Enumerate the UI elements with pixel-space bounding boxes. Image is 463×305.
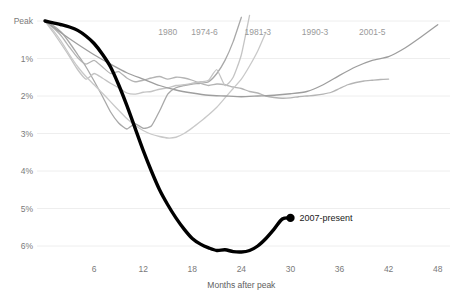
- x-axis-tick-labels: 612182430364248: [92, 264, 443, 274]
- x-tick-label: 30: [286, 264, 296, 274]
- x-tick-label: 12: [138, 264, 148, 274]
- gridlines: [37, 21, 450, 246]
- series-label-2007-present: 2007-present: [299, 213, 353, 223]
- x-axis-title-text: Months after peak: [207, 280, 276, 290]
- series-label-1981-3: 1981-3: [244, 27, 271, 37]
- y-axis-tick-labels: Peak1%2%3%4%5%6%: [14, 16, 34, 251]
- series-line-1990-3: [45, 21, 266, 138]
- x-axis-title: Months after peak: [207, 280, 276, 290]
- y-tick-label: 5%: [21, 204, 34, 214]
- series-line-2007-present: [45, 21, 290, 252]
- y-tick-label: 3%: [21, 129, 34, 139]
- current-series-label: 2007-present: [299, 213, 353, 223]
- series-label-1974-6: 1974-6: [191, 27, 218, 37]
- y-tick-label: 2%: [21, 91, 34, 101]
- y-tick-label: 1%: [21, 54, 34, 64]
- current-series-endpoint-marker: [286, 214, 294, 222]
- x-tick-label: 42: [384, 264, 394, 274]
- x-tick-label: 48: [433, 264, 443, 274]
- x-tick-label: 18: [188, 264, 198, 274]
- series-inline-labels: 19801974-61981-31990-32001-5: [158, 27, 386, 37]
- y-tick-label: Peak: [14, 16, 34, 26]
- series-label-2001-5: 2001-5: [359, 27, 386, 37]
- series-label-1990-3: 1990-3: [302, 27, 329, 37]
- recession-job-losses-chart: Peak1%2%3%4%5%6% 19801974-61981-31990-32…: [0, 0, 463, 305]
- x-tick-label: 24: [237, 264, 247, 274]
- y-tick-label: 6%: [21, 241, 34, 251]
- y-tick-label: 4%: [21, 166, 34, 176]
- series-label-1980: 1980: [158, 27, 177, 37]
- x-tick-label: 6: [92, 264, 97, 274]
- chart-canvas: Peak1%2%3%4%5%6% 19801974-61981-31990-32…: [0, 0, 463, 305]
- x-tick-label: 36: [335, 264, 345, 274]
- endpoint-dot: [286, 214, 294, 222]
